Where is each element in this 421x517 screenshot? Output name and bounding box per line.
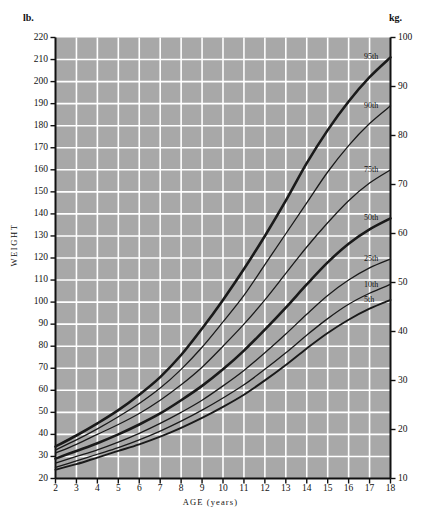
y-right-tick-50: 50: [398, 277, 421, 287]
y-left-tick-200: 200: [18, 76, 48, 86]
y-left-tick-210: 210: [18, 54, 48, 64]
y-left-tick-170: 170: [18, 142, 48, 152]
percentile-label-10th: 10th: [364, 280, 378, 289]
x-tick-16: 16: [339, 483, 359, 493]
percentile-label-75th: 75th: [364, 165, 378, 174]
y-left-tick-80: 80: [18, 340, 48, 350]
y-left-tick-120: 120: [18, 252, 48, 262]
y-left-tick-40: 40: [18, 428, 48, 438]
y-right-tick-10: 10: [398, 473, 421, 483]
x-tick-9: 9: [192, 483, 212, 493]
y-left-tick-110: 110: [18, 274, 48, 284]
y-left-tick-130: 130: [18, 230, 48, 240]
x-tick-10: 10: [213, 483, 233, 493]
percentile-label-25th: 25th: [364, 254, 378, 263]
x-tick-5: 5: [108, 483, 128, 493]
x-tick-14: 14: [297, 483, 317, 493]
percentile-label-95th: 95th: [364, 52, 378, 61]
y-left-tick-50: 50: [18, 406, 48, 416]
y-left-tick-180: 180: [18, 120, 48, 130]
y-left-tick-30: 30: [18, 450, 48, 460]
x-tick-2: 2: [46, 483, 66, 493]
grid-lines: [56, 38, 391, 479]
y-right-tick-20: 20: [398, 424, 421, 434]
y-right-tick-80: 80: [398, 130, 421, 140]
y-right-tick-70: 70: [398, 179, 421, 189]
percentile-label-5th: 5th: [364, 295, 374, 304]
x-tick-7: 7: [150, 483, 170, 493]
y-left-tick-100: 100: [18, 296, 48, 306]
x-tick-13: 13: [276, 483, 296, 493]
y-left-tick-90: 90: [18, 318, 48, 328]
y-left-tick-70: 70: [18, 362, 48, 372]
x-tick-15: 15: [318, 483, 338, 493]
y-right-tick-40: 40: [398, 326, 421, 336]
percentile-label-90th: 90th: [364, 101, 378, 110]
x-tick-18: 18: [381, 483, 401, 493]
x-tick-8: 8: [171, 483, 191, 493]
plot-canvas: [0, 0, 421, 517]
left-axis-unit-label: lb.: [23, 12, 34, 23]
y-left-tick-140: 140: [18, 208, 48, 218]
x-tick-6: 6: [129, 483, 149, 493]
y-right-tick-60: 60: [398, 228, 421, 238]
y-right-tick-100: 100: [398, 32, 421, 42]
x-axis-title: AGE (years): [0, 497, 421, 507]
x-tick-3: 3: [66, 483, 86, 493]
y-left-tick-190: 190: [18, 98, 48, 108]
y-left-tick-220: 220: [18, 32, 48, 42]
y-left-tick-150: 150: [18, 186, 48, 196]
growth-chart: lb. kg. WEIGHT AGE (years) 2030405060708…: [0, 0, 421, 517]
x-tick-4: 4: [87, 483, 107, 493]
y-right-tick-90: 90: [398, 81, 421, 91]
y-axis-title: WEIGHT: [9, 215, 19, 275]
y-right-tick-30: 30: [398, 375, 421, 385]
x-tick-12: 12: [255, 483, 275, 493]
right-axis-unit-label: kg.: [389, 12, 402, 23]
percentile-label-50th: 50th: [364, 213, 378, 222]
y-left-tick-60: 60: [18, 384, 48, 394]
y-left-tick-160: 160: [18, 164, 48, 174]
x-tick-11: 11: [234, 483, 254, 493]
y-left-tick-20: 20: [18, 473, 48, 483]
x-tick-17: 17: [360, 483, 380, 493]
